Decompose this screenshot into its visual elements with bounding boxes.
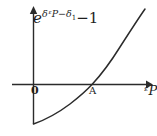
point-a-label: A	[89, 86, 96, 96]
exponential-curve-figure: eδᵋP−δ1−1 0 A ᵋP	[0, 0, 157, 136]
y-axis-label-exponent: δᵋP−δ1	[42, 8, 76, 19]
exponent-minus-delta: −δ	[58, 8, 72, 19]
exponent-variable: ᵋP	[48, 8, 58, 19]
origin-label: 0	[31, 85, 39, 96]
y-axis-label: eδᵋP−δ1−1	[33, 9, 98, 26]
y-axis-label-base: e	[33, 9, 42, 27]
x-axis-label: ᵋP	[143, 84, 157, 97]
y-axis-label-tail: −1	[76, 9, 98, 27]
